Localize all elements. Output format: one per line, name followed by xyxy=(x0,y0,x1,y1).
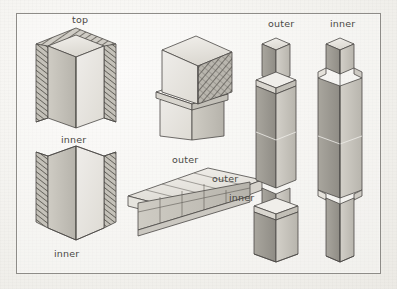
drawing-top-left-pier-block xyxy=(36,28,116,128)
label-inner-lower-left: inner xyxy=(54,248,79,259)
label-inner-slab-right: inner xyxy=(229,192,254,203)
drawing-bottom-left-pier-block xyxy=(36,146,116,240)
drawing-center-cap-block xyxy=(156,36,232,140)
label-outer-slab-upper: outer xyxy=(172,154,198,165)
figure-artwork xyxy=(0,0,397,289)
label-outer-slab-right: outer xyxy=(212,173,238,184)
label-inner-upper-left: inner xyxy=(61,134,86,145)
label-inner-column: inner xyxy=(330,18,355,29)
label-outer-column: outer xyxy=(268,18,294,29)
label-top: top xyxy=(72,14,88,25)
drawing-column-inner xyxy=(318,38,362,262)
illustration-root: top inner inner outer outer inner outer … xyxy=(0,0,397,289)
drawing-column-outer xyxy=(254,38,298,262)
